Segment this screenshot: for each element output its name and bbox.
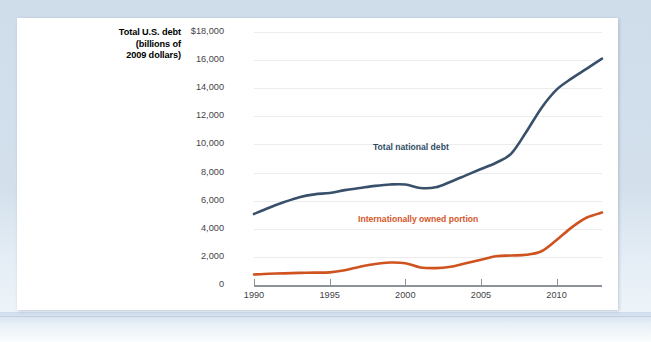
y-axis-tick-label: 16,000 [154,54,224,64]
total-national-debt-label: Total national debt [373,142,449,152]
y-axis-tick-label: 2,000 [154,251,224,261]
y-axis-tick-label: 0 [154,279,224,289]
series-lines [232,32,602,304]
y-axis-tick-label: 10,000 [154,138,224,148]
y-axis-title-line-2: (billions of [61,39,181,51]
y-axis-tick-label: 8,000 [154,167,224,177]
y-axis-tick-label: $18,000 [154,26,224,36]
y-axis-tick-label: 12,000 [154,110,224,120]
internationally-owned-portion-label: Internationally owned portion [358,214,478,224]
figure-card: Total U.S. debt (billions of 2009 dollar… [17,18,618,310]
page-root: Total U.S. debt (billions of 2009 dollar… [0,0,651,342]
total-national-debt-line [254,59,602,214]
y-axis-tick-label: 4,000 [154,223,224,233]
y-axis-tick-label: 14,000 [154,82,224,92]
plot-area: $18,00016,00014,00012,00010,0008,0006,00… [232,32,602,304]
page-bottom-rule [0,316,651,317]
line-chart: Total U.S. debt (billions of 2009 dollar… [17,18,618,310]
y-axis-tick-label: 6,000 [154,195,224,205]
